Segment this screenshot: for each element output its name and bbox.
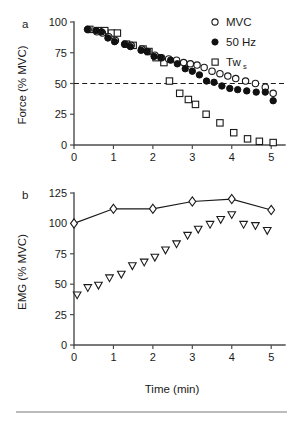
data-point: [211, 79, 217, 85]
data-point: [185, 96, 191, 102]
series-submaximal-emg-markers: [73, 212, 271, 299]
data-point: [268, 205, 275, 214]
panel-b-y-axis-title: EMG (% MVC): [16, 234, 28, 310]
data-point: [149, 204, 156, 213]
data-point: [151, 53, 157, 59]
data-point: [194, 62, 200, 68]
data-point: [173, 241, 181, 248]
panel-a: a 0255075100 012345 Force (% MVC) MVC 50…: [16, 16, 285, 163]
data-point: [231, 130, 237, 136]
x-tick-label: 4: [229, 351, 235, 363]
data-point: [252, 80, 258, 86]
data-point: [194, 226, 202, 233]
legend-label-50hz: 50 Hz: [226, 36, 256, 48]
x-tick-label: 3: [189, 151, 195, 163]
data-point: [201, 64, 207, 70]
y-tick-label: 75: [55, 47, 67, 59]
data-point: [209, 68, 215, 74]
x-tick-label: 0: [71, 151, 77, 163]
data-point: [234, 86, 240, 92]
y-tick-label: 75: [55, 248, 67, 260]
legend-open-circle-icon: [212, 19, 218, 25]
data-point: [174, 61, 180, 67]
data-point: [176, 90, 182, 96]
data-point: [111, 38, 117, 44]
data-point: [262, 89, 268, 95]
data-point: [106, 275, 114, 282]
data-point: [110, 204, 117, 213]
data-point: [162, 247, 170, 254]
data-point: [252, 223, 260, 230]
x-tick-label: 5: [268, 151, 274, 163]
data-point: [144, 48, 150, 54]
panel-b-y-ticks: 0255075100125: [49, 187, 74, 351]
x-tick-label: 4: [229, 151, 235, 163]
x-tick-label: 1: [110, 151, 116, 163]
data-point: [270, 98, 276, 104]
data-point: [270, 139, 276, 145]
data-point: [233, 75, 239, 81]
y-tick-label: 125: [49, 187, 67, 199]
figure-container: a 0255075100 012345 Force (% MVC) MVC 50…: [0, 0, 301, 423]
data-point: [98, 29, 104, 35]
data-point: [203, 111, 209, 117]
panel-b: b 0255075100125 012345 EMG (% MVC) Time …: [16, 187, 285, 395]
data-point: [256, 138, 262, 144]
panel-a-x-ticks: 012345: [71, 145, 274, 163]
legend-label-mvc: MVC: [226, 16, 252, 28]
panel-b-letter: b: [22, 189, 28, 201]
data-point: [189, 197, 196, 206]
data-point: [206, 221, 214, 228]
data-point: [270, 90, 276, 96]
data-point: [217, 217, 225, 224]
data-point: [217, 70, 223, 76]
data-point: [114, 30, 120, 36]
panel-b-x-ticks: 012345: [71, 345, 274, 363]
data-point: [129, 263, 137, 270]
data-point: [71, 219, 78, 228]
panel-a-legend: MVC 50 Hz Tw s: [212, 16, 256, 71]
data-point: [196, 72, 202, 78]
panel-b-x-axis-title: Time (min): [145, 383, 200, 395]
y-tick-label: 50: [55, 278, 67, 290]
legend-label-tw: Tw: [226, 56, 241, 68]
data-point: [140, 259, 148, 266]
series-mvc-emg-line: [74, 199, 271, 223]
data-point: [217, 120, 223, 126]
y-tick-label: 0: [61, 139, 67, 151]
data-point: [219, 83, 225, 89]
data-point: [184, 232, 192, 239]
data-point: [182, 66, 188, 72]
data-point: [240, 221, 248, 228]
data-point: [105, 35, 111, 41]
data-point: [228, 212, 236, 219]
data-point: [167, 57, 173, 63]
data-point: [84, 285, 92, 292]
panel-a-y-ticks: 0255075100: [49, 16, 74, 151]
data-point: [228, 194, 235, 203]
data-point: [118, 271, 126, 278]
data-point: [127, 43, 133, 49]
data-point: [225, 73, 231, 79]
data-point: [192, 101, 198, 107]
data-point: [242, 78, 248, 84]
data-point: [253, 89, 259, 95]
legend-label-tw-subscript: s: [243, 62, 247, 71]
x-tick-label: 1: [110, 351, 116, 363]
panel-a-letter: a: [22, 18, 29, 30]
data-point: [84, 26, 90, 32]
y-tick-label: 100: [49, 16, 67, 28]
x-tick-label: 5: [268, 351, 274, 363]
data-point: [203, 78, 209, 84]
y-tick-label: 100: [49, 217, 67, 229]
x-tick-label: 2: [150, 351, 156, 363]
panel-a-y-axis-title: Force (% MVC): [16, 45, 28, 124]
x-tick-label: 3: [189, 351, 195, 363]
data-point: [187, 61, 193, 67]
scientific-figure: a 0255075100 012345 Force (% MVC) MVC 50…: [0, 0, 301, 423]
data-point: [166, 78, 172, 84]
data-point: [244, 88, 250, 94]
y-tick-label: 25: [55, 309, 67, 321]
data-point: [189, 68, 195, 74]
data-point: [151, 254, 159, 261]
